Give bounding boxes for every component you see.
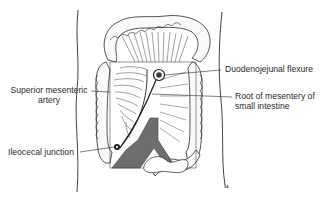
- label-sma-line1: Superior mesenteric: [6, 85, 92, 95]
- label-root-of-mesentery: Root of mesentery of small intestine: [235, 91, 315, 111]
- posterior-wall: [110, 62, 196, 168]
- label-superior-mesenteric-artery: Superior mesenteric artery: [6, 85, 92, 105]
- duodenojejunal-flexure: [154, 70, 165, 81]
- label-duodenojejunal-flexure: Duodenojejunal flexure: [225, 64, 313, 74]
- label-sma-line2: artery: [6, 95, 92, 105]
- label-ileocecal-junction: Ileocecal junction: [8, 147, 74, 157]
- ileocecal-junction: [114, 144, 120, 150]
- right-mesentery-rays: [160, 72, 188, 142]
- transverse-mesocolon: [122, 32, 188, 62]
- label-root-line1: Root of mesentery of: [235, 91, 315, 101]
- body-outline-right: [219, 12, 225, 185]
- artist-mark: 54: [224, 184, 228, 189]
- small-intestine-mesentery: [114, 67, 148, 138]
- label-root-line2: small intestine: [235, 101, 315, 111]
